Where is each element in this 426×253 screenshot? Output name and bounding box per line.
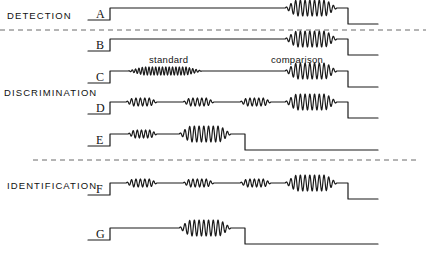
trace-B: [88, 31, 378, 55]
category-label-detection: DETECTION: [7, 10, 72, 21]
trace-path-F: [88, 175, 378, 199]
trace-path-A: [88, 0, 378, 24]
segment-label-comparison: comparison: [271, 54, 323, 65]
trace-label-E: E: [96, 133, 103, 148]
trace-C: [88, 63, 378, 87]
category-label-discrimination: DISCRIMINATION: [4, 87, 97, 98]
trace-path-B: [88, 31, 378, 55]
waveform-figure: DETECTIONDISCRIMINATIONIDENTIFICATIONsta…: [0, 0, 426, 253]
category-label-identification: IDENTIFICATION: [7, 180, 97, 191]
trace-A: [88, 0, 378, 24]
trace-F: [88, 175, 378, 199]
trace-E: [88, 126, 378, 150]
trace-D: [88, 94, 378, 118]
trace-path-G: [88, 220, 378, 244]
trace-label-G: G: [96, 227, 105, 242]
trace-label-A: A: [96, 7, 105, 22]
trace-label-C: C: [96, 70, 104, 85]
trace-label-B: B: [96, 38, 104, 53]
trace-path-E: [88, 126, 378, 150]
trace-path-C: [88, 63, 378, 87]
trace-path-D: [88, 94, 378, 118]
trace-label-F: F: [96, 182, 103, 197]
trace-label-D: D: [96, 101, 105, 116]
trace-G: [88, 220, 378, 244]
trace-canvas: [0, 0, 426, 253]
segment-label-standard: standard: [149, 54, 188, 65]
